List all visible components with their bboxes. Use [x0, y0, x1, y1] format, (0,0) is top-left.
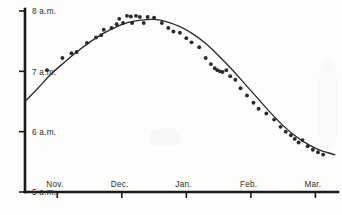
data-point: [70, 51, 74, 55]
data-point: [142, 21, 146, 25]
data-point: [204, 56, 208, 60]
data-point: [99, 33, 103, 37]
paper-edge-shadow: [318, 60, 338, 150]
data-point: [184, 36, 188, 40]
data-point: [125, 14, 129, 18]
data-point: [221, 70, 225, 74]
data-point: [94, 36, 98, 40]
data-point: [284, 130, 288, 134]
data-point: [85, 41, 89, 45]
x-axis-tick-label: Dec.: [111, 180, 129, 189]
data-point: [146, 15, 150, 19]
data-point: [272, 118, 276, 122]
data-point: [171, 30, 175, 34]
data-point: [166, 26, 170, 30]
data-point: [279, 125, 283, 129]
data-point: [297, 141, 301, 145]
x-axis-label-group: Nov.Dec.Jan.Feb.Mar.: [46, 180, 321, 189]
data-point: [130, 21, 134, 25]
data-point: [138, 15, 142, 19]
data-point: [264, 112, 268, 116]
data-point: [134, 14, 138, 18]
data-point: [252, 101, 256, 105]
y-axis-tick-label: 5 a.m.: [32, 188, 56, 197]
data-point: [129, 14, 133, 18]
data-point: [228, 74, 232, 78]
data-point: [293, 137, 297, 141]
data-point: [245, 94, 249, 98]
data-point: [60, 56, 64, 60]
sunrise-time-chart: 8 a.m.7 a.m.6 a.m.5 a.m. Nov.Dec.Jan.Feb…: [0, 0, 342, 215]
x-axis-tick-label: Nov.: [46, 180, 63, 189]
data-point: [301, 138, 305, 142]
data-point: [110, 26, 114, 30]
x-axis-tick-label: Feb.: [240, 180, 257, 189]
data-point: [289, 133, 293, 137]
y-axis-label-group: 8 a.m.7 a.m.6 a.m.5 a.m.: [32, 7, 56, 197]
data-point: [102, 28, 106, 32]
data-point-group: [45, 14, 325, 157]
data-point: [178, 31, 182, 35]
data-point: [197, 45, 201, 49]
data-point: [321, 153, 325, 157]
paper-smudge: [150, 128, 180, 146]
data-point: [209, 62, 213, 66]
data-point: [160, 21, 164, 25]
data-point: [121, 21, 125, 25]
data-point: [224, 68, 228, 72]
y-axis-tick-label: 6 a.m.: [32, 128, 56, 137]
x-axis-tick-label: Jan.: [175, 180, 191, 189]
data-point: [75, 50, 79, 54]
data-point: [233, 78, 237, 82]
data-point: [190, 40, 194, 44]
data-point: [306, 144, 310, 148]
data-point: [257, 107, 261, 111]
data-point: [115, 22, 119, 26]
y-axis-tick-label: 7 a.m.: [32, 68, 56, 77]
chart-canvas: 8 a.m.7 a.m.6 a.m.5 a.m. Nov.Dec.Jan.Feb…: [0, 0, 342, 215]
data-point: [316, 150, 320, 154]
data-point: [239, 86, 243, 90]
x-axis-tick-label: Mar.: [304, 180, 321, 189]
data-point: [152, 16, 156, 20]
data-point: [117, 17, 121, 21]
data-point: [311, 148, 315, 152]
y-axis-tick-label: 8 a.m.: [32, 7, 56, 16]
